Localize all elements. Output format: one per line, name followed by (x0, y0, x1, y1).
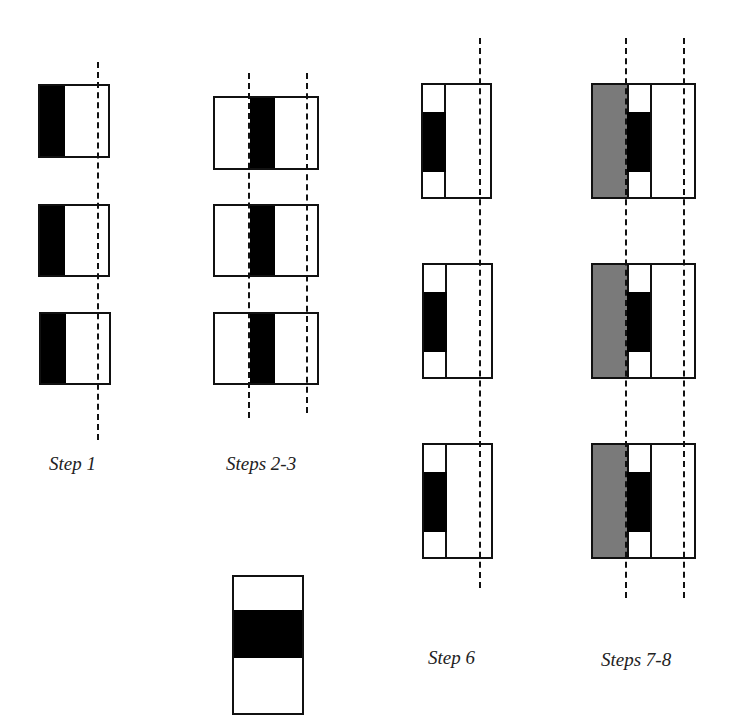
black-stripe (424, 292, 447, 352)
cut-line (97, 62, 99, 440)
cut-line-right (683, 38, 685, 598)
black-stripe (627, 112, 651, 172)
gray-stripe (593, 445, 627, 557)
step6-block-2 (422, 263, 493, 379)
black-stripe (40, 86, 65, 156)
steps78-block-1 (591, 83, 696, 199)
black-stripe (41, 314, 66, 383)
divider (650, 85, 652, 197)
steps23-block-1 (213, 96, 319, 170)
step6-block-1 (421, 83, 492, 199)
step1-block-3 (39, 312, 111, 385)
cut-line-left (625, 38, 627, 598)
steps78-block-3 (591, 443, 696, 559)
label-steps-2-3: Steps 2-3 (226, 453, 296, 475)
steps23-block-3 (213, 312, 319, 385)
black-stripe (627, 292, 651, 352)
label-step-6: Step 6 (428, 647, 475, 669)
gray-stripe (593, 85, 627, 197)
cut-line-right (306, 73, 308, 413)
cut-line (479, 38, 481, 588)
black-stripe (627, 472, 651, 532)
black-stripe (250, 98, 275, 168)
step1-block-1 (38, 84, 110, 158)
divider (650, 265, 652, 377)
steps23-block-2 (213, 204, 319, 277)
single-strip-piece (232, 575, 304, 715)
cut-line-left (248, 73, 250, 418)
gray-stripe (593, 265, 627, 377)
black-band (234, 610, 302, 658)
step1-block-2 (38, 204, 110, 277)
label-steps-7-8: Steps 7-8 (601, 649, 671, 671)
black-stripe (423, 112, 446, 172)
label-step-1: Step 1 (49, 453, 96, 475)
black-stripe (250, 314, 275, 383)
black-stripe (250, 206, 275, 275)
step6-block-3 (422, 443, 493, 559)
black-stripe (424, 472, 447, 532)
steps78-block-2 (591, 263, 696, 379)
divider (650, 445, 652, 557)
black-stripe (40, 206, 65, 275)
